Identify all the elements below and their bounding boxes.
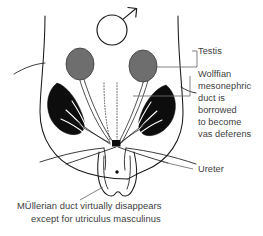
label-wolffian-line-2: mesonephric bbox=[198, 81, 252, 91]
duct-convergence-node bbox=[112, 140, 121, 147]
figure-root: Testis Wolffian mesonephric duct is borr… bbox=[0, 0, 263, 236]
caption-line-1: MÜllerian duct virtually disappears bbox=[17, 200, 162, 211]
label-testis: Testis bbox=[198, 46, 222, 56]
ureter bbox=[66, 147, 168, 164]
ureter-leader-line bbox=[163, 162, 193, 169]
label-ureter: Ureter bbox=[198, 164, 224, 174]
male-symbol-icon bbox=[97, 8, 137, 45]
label-wolffian-line-3: duct is bbox=[198, 93, 225, 103]
label-wolffian-line-6: vas deferens bbox=[198, 129, 252, 139]
utriculus-masculinus bbox=[115, 170, 118, 173]
mesonephros-left bbox=[48, 83, 87, 135]
urogenital-sinus bbox=[40, 148, 196, 196]
testis-left bbox=[66, 48, 94, 80]
testis-right bbox=[129, 50, 157, 82]
testis-leader-line bbox=[157, 51, 197, 67]
label-wolffian-line-5: to become bbox=[198, 117, 241, 127]
label-wolffian-line-1: Wolffian bbox=[198, 69, 231, 79]
caption-line-2: except for utriculus masculinus bbox=[31, 213, 161, 224]
anatomical-diagram: Testis Wolffian mesonephric duct is borr… bbox=[0, 0, 263, 236]
label-wolffian-line-4: borrowed bbox=[198, 105, 237, 115]
caption-leader-line bbox=[80, 187, 103, 200]
